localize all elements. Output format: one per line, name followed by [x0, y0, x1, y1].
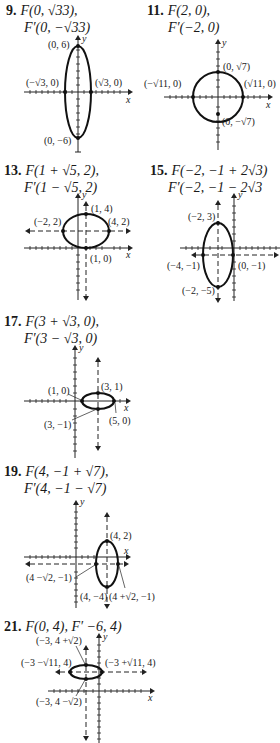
covertex-bottom-label: (0, −√7)	[222, 116, 255, 128]
y-axis-label: y	[237, 189, 243, 200]
x-axis-label: x	[265, 99, 271, 110]
vertex-bottom-label: (0, −6)	[44, 135, 71, 147]
vertex-top-label: (3, 1)	[101, 381, 123, 393]
ellipse-graph-21: (−3, 4 +√2) (−3, 4 −√2) (−3 −√11, 4) (−3…	[0, 600, 170, 743]
vertex-left-label: (1, 0)	[48, 385, 70, 397]
vertex-top-label: (0, 6)	[48, 39, 70, 51]
vertex-bottom-label: (3, −1)	[44, 419, 71, 431]
x-axis-label: x	[147, 692, 153, 703]
y-axis-label: y	[221, 37, 227, 48]
vertex-right-label: (√11, 0)	[244, 78, 276, 90]
x-axis-label: x	[125, 94, 131, 105]
covertex-left-label: (4 −√2, −1)	[26, 572, 72, 584]
ellipse-graph-17: (3, 1) (3, −1) (1, 0) (5, 0) y x	[0, 310, 170, 460]
vertex-top-label: (1, 4)	[91, 203, 113, 215]
vertex-bottom-label: (−2, −5)	[182, 285, 215, 297]
ellipse-graph-11: (0, √7) (0, −√7) (−√11, 0) (√11, 0) y x	[140, 0, 280, 160]
covertex-top-label: (0, √7)	[223, 61, 250, 73]
vertex-top-label: (−3, 4 +√2)	[36, 635, 82, 647]
y-axis-label: y	[81, 189, 87, 200]
ellipse-graph-9: (0, 6) (0, −6) (−√3, 0) (√3, 0) y x	[0, 0, 140, 160]
covertex-left-label: (−4, −1)	[167, 260, 200, 272]
ellipse-graph-13: (1, 4) (1, 0) (−2, 2) (4, 2) y x	[0, 160, 140, 305]
covertex-right-label: (0, −1)	[238, 260, 265, 272]
vertex-top-label: (4, 2)	[110, 530, 132, 542]
x-axis-label: x	[125, 249, 131, 260]
x-axis-label: x	[123, 402, 129, 413]
y-axis-label: y	[79, 496, 85, 507]
y-axis-label: y	[102, 631, 108, 642]
vertex-bottom-label: (1, 0)	[90, 253, 112, 265]
y-axis-label: y	[81, 33, 87, 44]
vertex-right-label: (4, 2)	[108, 216, 130, 228]
vertex-right-label: (5, 0)	[109, 415, 131, 427]
vertex-left-label: (−3 −√11, 4)	[21, 657, 72, 669]
x-axis-label: x	[123, 545, 129, 556]
vertex-bottom-label: (−3, 4 −√2)	[36, 696, 82, 708]
vertex-right-label: (−3 +√11, 4)	[105, 657, 156, 669]
ellipse-graph-15: (−2, 3) (−2, −5) (−4, −1) (0, −1) y	[140, 160, 280, 305]
covertex-left-label: (−√3, 0)	[26, 77, 59, 89]
y-axis-label: y	[78, 342, 84, 353]
vertex-left-label: (−2, 2)	[34, 216, 61, 228]
vertex-top-label: (−2, 3)	[188, 211, 215, 223]
vertex-left-label: (−√11, 0)	[144, 78, 181, 90]
covertex-right-label: (√3, 0)	[95, 77, 122, 89]
ellipse-graph-19: (4, 2) (4, −4) (4 −√2, −1) (4 +√2, −1) y…	[0, 460, 170, 610]
